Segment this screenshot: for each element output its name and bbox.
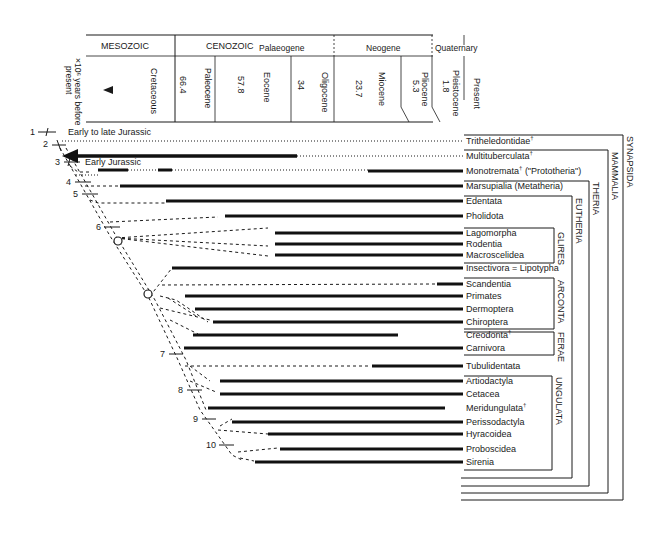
- taxon-label: Primates: [466, 291, 502, 301]
- epoch-value-23-7: 23.7: [354, 80, 364, 98]
- node-4-label: 4: [66, 177, 71, 187]
- phylogeny-diagram: MESOZOIC CENOZOIC Palaeogene Neogene Qua…: [0, 0, 670, 537]
- node-note-early-jurassic: Early Jurassic: [85, 157, 142, 167]
- epoch-eocene: Eocene: [262, 72, 272, 103]
- node-6-label: 6: [96, 222, 101, 232]
- taxon-label: Insectivora = Lipotypha: [466, 263, 559, 273]
- epoch-value-1-8: 1.8: [441, 80, 451, 93]
- taxon-label: Sirenia: [466, 457, 494, 467]
- taxon-label: Multituberculata†: [466, 150, 533, 161]
- arrow-left-icon: [62, 149, 78, 163]
- node-5-label: 5: [73, 189, 78, 199]
- group-synapsida: SYNAPSIDA: [625, 136, 635, 188]
- node-6-circle-icon: [114, 237, 122, 245]
- epoch-value-34: 34: [296, 80, 306, 90]
- node-9-label: 9: [193, 414, 198, 424]
- range-bars: [72, 156, 463, 462]
- group-mammalia: MAMMALIA: [610, 152, 620, 200]
- epoch-oligocene: Oligocene: [320, 72, 330, 113]
- taxon-label: Pholidota: [466, 211, 504, 221]
- group-glires: GLIRES: [556, 232, 566, 265]
- axis-label-present: present: [64, 66, 74, 95]
- taxon-label: Rodentia: [466, 239, 502, 249]
- group-theria: THERIA: [591, 182, 601, 215]
- arrow-left-icon: [103, 86, 113, 94]
- taxon-label: Artiodactyla: [466, 376, 513, 386]
- taxon-label: Lagomorpha: [466, 228, 517, 238]
- tree-spine: [60, 148, 435, 461]
- node-1-label: 1: [30, 127, 35, 137]
- node-8-label: 8: [178, 385, 183, 395]
- group-ferae: FERAE: [556, 332, 566, 362]
- period-quaternary: Quaternary: [435, 43, 478, 53]
- taxon-label: Chiroptera: [466, 317, 508, 327]
- era-cenozoic: CENOZOIC: [206, 41, 254, 51]
- era-mesozoic: MESOZOIC: [101, 41, 150, 51]
- taxon-label: Perissodactyla: [466, 417, 525, 427]
- node-3-label: 3: [55, 157, 60, 167]
- taxon-label: Dermoptera: [466, 304, 514, 314]
- period-neogene: Neogene: [366, 43, 401, 53]
- node-note-early-to-late-jurassic: Early to late Jurassic: [68, 127, 152, 137]
- epoch-paleocene: Paleocene: [203, 68, 213, 108]
- group-ungulata: UNGULATA: [554, 377, 564, 425]
- taxon-label: Tubulidentata: [466, 361, 520, 371]
- taxon-label: Cetacea: [466, 389, 500, 399]
- node-10-label: 10: [206, 440, 216, 450]
- group-eutheria: EUTHERIA: [574, 198, 584, 244]
- node-arconta-circle-icon: [144, 290, 152, 298]
- taxon-label: Proboscidea: [466, 444, 516, 454]
- epoch-value-5-3: 5.3: [411, 80, 421, 93]
- node-2-label: 2: [43, 139, 48, 149]
- node-7-label: 7: [160, 349, 165, 359]
- taxon-label: Marsupialia (Metatheria): [466, 181, 563, 191]
- time-scale-labels: MESOZOIC CENOZOIC Palaeogene Neogene Qua…: [64, 41, 482, 126]
- taxon-label: Tritheledontidae†: [466, 135, 534, 146]
- epoch-miocene: Miocene: [377, 72, 387, 106]
- period-palaeogene: Palaeogene: [259, 43, 305, 53]
- epoch-value-66-4: 66.4: [178, 76, 188, 94]
- taxon-label: Macroscelidea: [466, 250, 524, 260]
- epoch-present: Present: [472, 78, 482, 110]
- epoch-cretaceous: Cretaceous: [149, 68, 159, 115]
- group-arconta: ARCONTA: [556, 280, 566, 323]
- epoch-pleistocene: Pleistocene: [451, 70, 461, 117]
- taxon-label: Edentata: [466, 196, 502, 206]
- taxon-label: Monotremata† ("Prototheria"): [466, 165, 581, 176]
- taxon-label: Meridungulata†: [466, 402, 526, 413]
- taxon-label: Creodonta†: [466, 329, 511, 340]
- taxon-label: Carnivora: [466, 343, 505, 353]
- taxon-label: Scandentia: [466, 279, 511, 289]
- node-markers: 1 Early to late Jurassic 2 3 Early Juras…: [30, 127, 234, 450]
- taxon-label: Hyracoidea: [466, 429, 512, 439]
- epoch-value-57-8: 57.8: [236, 76, 246, 94]
